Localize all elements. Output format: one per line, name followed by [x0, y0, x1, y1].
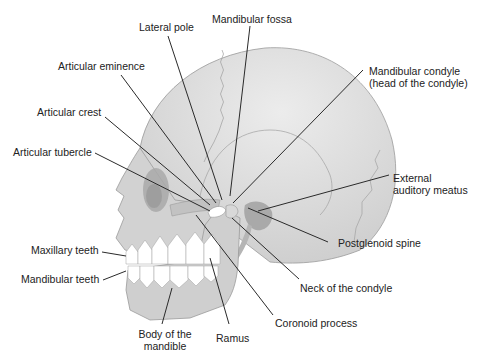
label-external-auditory-meatus: External auditory meatus	[393, 172, 468, 196]
label-body-of-mandible-line1: Body of the	[130, 328, 200, 340]
label-body-of-mandible-line2: mandible	[130, 340, 200, 352]
label-mandibular-teeth: Mandibular teeth	[21, 273, 99, 285]
orbit-inner	[146, 184, 162, 208]
leader-maxillary-teeth	[102, 252, 126, 256]
label-mandibular-condyle-line1: Mandibular condyle	[369, 65, 468, 77]
label-lateral-pole: Lateral pole	[139, 21, 194, 33]
label-ramus: Ramus	[216, 332, 249, 344]
label-maxillary-teeth: Maxillary teeth	[31, 244, 99, 256]
label-mandibular-condyle: Mandibular condyle (head of the condyle)	[369, 65, 468, 89]
label-coronoid-process: Coronoid process	[275, 317, 357, 329]
label-postglenoid-spine: Postglenoid spine	[338, 237, 421, 249]
label-articular-eminence: Articular eminence	[58, 60, 145, 72]
label-articular-crest: Articular crest	[37, 106, 101, 118]
label-external-auditory-meatus-line2: auditory meatus	[393, 184, 468, 196]
label-articular-tubercle: Articular tubercle	[13, 146, 92, 158]
leader-mandibular-teeth	[103, 271, 126, 280]
label-mandibular-condyle-line2: (head of the condyle)	[369, 77, 468, 89]
label-external-auditory-meatus-line1: External	[393, 172, 468, 184]
label-body-of-mandible: Body of the mandible	[130, 328, 200, 352]
label-mandibular-fossa: Mandibular fossa	[212, 13, 292, 25]
label-neck-of-condyle: Neck of the condyle	[300, 282, 392, 294]
